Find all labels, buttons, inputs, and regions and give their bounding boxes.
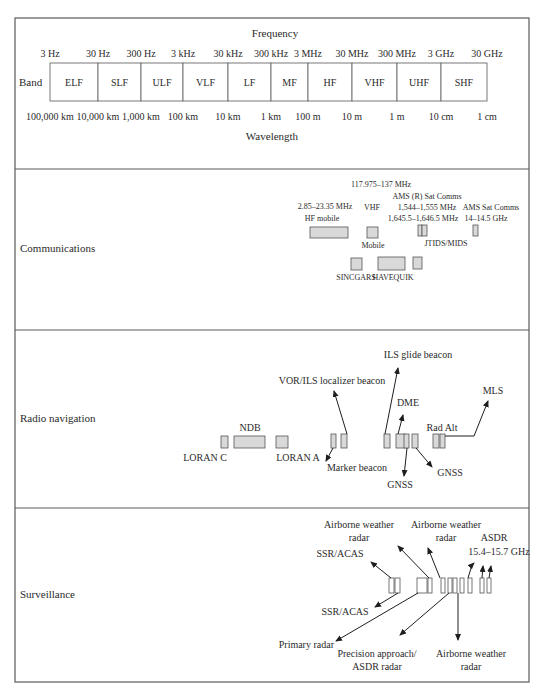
allocation-box xyxy=(341,434,347,448)
wavelength-tick: 10 km xyxy=(215,111,241,122)
allocation-box xyxy=(441,578,445,593)
allocation-box xyxy=(367,227,378,238)
allocation-box xyxy=(468,578,472,593)
label-marker: Marker beacon xyxy=(327,462,387,473)
allocation-box xyxy=(460,578,464,593)
arrow-icon xyxy=(416,448,432,467)
label-sincgars: SINCGARS xyxy=(336,273,376,282)
radio-navigation-title: Radio navigation xyxy=(20,412,96,424)
label-mobile: Mobile xyxy=(361,241,385,250)
allocation-box xyxy=(422,225,427,236)
allocation-box xyxy=(428,578,432,593)
arrow-icon xyxy=(398,546,429,578)
communications-panel: Communications 117.975–137 MHzAMS (R) Sa… xyxy=(20,180,519,282)
surveillance-panel: Surveillance Airborne weatherradarAirbor… xyxy=(20,519,530,672)
frequency-tick: 300 MHz xyxy=(378,48,417,59)
frequency-tick: 3 MHz xyxy=(294,48,323,59)
allocation-box xyxy=(351,258,362,270)
label-awr-low-l1: Airborne weather xyxy=(436,648,507,659)
allocation-box xyxy=(384,434,390,448)
allocation-box xyxy=(433,434,439,448)
label-dme: DME xyxy=(397,397,419,408)
band-label-shf: SHF xyxy=(455,77,474,88)
label-ndb: NDB xyxy=(239,422,260,433)
label-ams-title: AMS Sat Comms xyxy=(463,203,519,212)
label-havequik: HAVEQUIK xyxy=(372,273,413,282)
band-label-slf: SLF xyxy=(111,77,129,88)
label-ssr-top: SSR/ACAS xyxy=(316,548,363,559)
label-jtids: JTIDS/MIDS xyxy=(424,239,467,248)
label-hf-range: 2.85–23.35 MHz xyxy=(298,202,353,211)
arrow-icon xyxy=(428,548,440,578)
surveillance-title: Surveillance xyxy=(20,588,75,600)
frequency-title: Frequency xyxy=(252,27,299,39)
label-awr-top1-l2: radar xyxy=(349,532,370,543)
band-label-elf: ELF xyxy=(65,77,83,88)
label-hf-mobile: HF mobile xyxy=(305,214,340,223)
frequency-tick: 30 GHz xyxy=(471,48,503,59)
label-ams-range: 14–14.5 GHz xyxy=(464,214,508,223)
wavelength-ticks: 100,000 km10,000 km1,000 km100 km10 km1 … xyxy=(26,111,497,122)
surveillance-arrows xyxy=(336,546,491,641)
arrow-icon xyxy=(482,566,483,578)
frequency-tick: 30 MHz xyxy=(335,48,369,59)
surveillance-labels: Airborne weatherradarAirborne weatherrad… xyxy=(279,519,531,672)
frequency-ticks: 3 Hz30 Hz300 Hz3 kHz30 kHz300 kHz3 MHz30… xyxy=(40,48,503,59)
arrow-icon xyxy=(336,593,418,641)
label-pa-l2: ASDR radar xyxy=(352,661,402,672)
allocation-box xyxy=(378,257,405,270)
allocation-box xyxy=(448,578,452,593)
spectrum-panel: Frequency 3 Hz30 Hz300 Hz3 kHz30 kHz300 … xyxy=(19,27,503,142)
label-loran-c: LORAN C xyxy=(183,452,227,463)
arrow-icon xyxy=(468,563,474,578)
communications-title: Communications xyxy=(20,242,95,254)
wavelength-tick: 1,000 km xyxy=(122,111,160,122)
frequency-tick: 300 Hz xyxy=(126,48,156,59)
label-gnss-right: GNSS xyxy=(437,467,463,478)
band-label-hf: HF xyxy=(324,77,337,88)
band-label-vhf: VHF xyxy=(364,77,384,88)
wavelength-tick: 1 cm xyxy=(477,111,497,122)
frequency-tick: 3 Hz xyxy=(40,48,60,59)
allocation-box xyxy=(412,434,418,448)
arrow-icon xyxy=(398,415,403,434)
label-asdr: ASDR xyxy=(481,532,508,543)
label-pa-l1: Precision approach/ xyxy=(337,648,416,659)
band-label-vlf: VLF xyxy=(196,77,215,88)
arrow-icon xyxy=(404,448,407,476)
wavelength-title: Wavelength xyxy=(246,130,299,142)
label-ils-glide: ILS glide beacon xyxy=(384,349,452,360)
allocation-box xyxy=(418,225,422,236)
allocation-box xyxy=(221,436,228,448)
label-vor-ils: VOR/ILS localizer beacon xyxy=(279,375,386,386)
label-awr-top2-l2: radar xyxy=(436,532,457,543)
allocation-box xyxy=(413,257,422,269)
wavelength-tick: 1 km xyxy=(261,111,282,122)
allocation-box xyxy=(440,434,445,448)
wavelength-tick: 100 km xyxy=(168,111,199,122)
label-vhf: VHF xyxy=(364,203,381,212)
label-mls: MLS xyxy=(483,385,504,396)
wavelength-tick: 10,000 km xyxy=(77,111,120,122)
allocation-box xyxy=(453,578,457,593)
allocation-box xyxy=(234,436,265,448)
label-asdr-range: 15.4–15.7 GHz xyxy=(468,546,530,557)
label-ssr-low: SSR/ACAS xyxy=(321,606,368,617)
label-primary: Primary radar xyxy=(279,639,335,650)
radio-navigation-panel: Radio navigation ILS glide beaconVOR/ILS… xyxy=(20,349,503,490)
wavelength-tick: 1 m xyxy=(389,111,405,122)
label-awr-top2-l1: Airborne weather xyxy=(411,519,482,530)
allocation-box xyxy=(389,578,394,593)
arrow-icon xyxy=(371,562,391,578)
spectrum-allocation-diagram: Frequency 3 Hz30 Hz300 Hz3 kHz30 kHz300 … xyxy=(0,0,544,700)
label-ams-r-range2: 1,645.5–1,646.5 MHz xyxy=(388,214,459,223)
band-label-uhf: UHF xyxy=(409,77,429,88)
allocation-box xyxy=(404,434,409,448)
label-awr-top1-l1: Airborne weather xyxy=(324,519,395,530)
allocation-box xyxy=(487,578,491,593)
allocation-box xyxy=(480,578,484,593)
wavelength-tick: 100,000 km xyxy=(26,111,74,122)
band-label: Band xyxy=(19,76,43,88)
surveillance-allocations xyxy=(389,578,491,593)
allocation-box xyxy=(473,225,478,236)
